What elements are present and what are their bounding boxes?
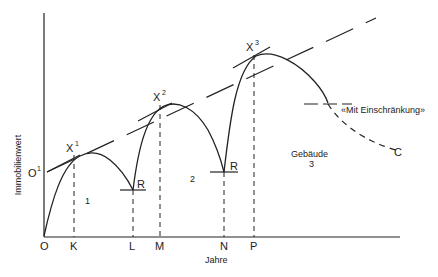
property-value-diagram: Immobilienwert O 1 O K L M N P Jahre X 1… bbox=[0, 0, 438, 277]
value-curve-cycle-1 bbox=[44, 153, 133, 236]
tangent-x1 bbox=[47, 155, 80, 172]
origin-label: O bbox=[40, 240, 49, 252]
x-axis-label: Jahre bbox=[205, 255, 228, 265]
svg-text:1: 1 bbox=[75, 140, 79, 147]
svg-text:O: O bbox=[28, 167, 37, 179]
x-tick-m: M bbox=[155, 240, 164, 252]
phase-label-1: 1 bbox=[85, 196, 90, 206]
x-tick-k: K bbox=[70, 240, 78, 252]
y-axis-label: Immobilienwert bbox=[13, 134, 23, 195]
phase-label-2: 2 bbox=[190, 174, 195, 184]
svg-text:3: 3 bbox=[255, 39, 259, 46]
phase-label-3: 3 bbox=[309, 159, 314, 169]
x-tick-l: L bbox=[129, 240, 135, 252]
curve-end-label: C bbox=[394, 146, 402, 158]
peak-label-x3: X 3 bbox=[246, 39, 259, 53]
tangent-x2 bbox=[138, 103, 172, 121]
svg-text:X: X bbox=[153, 91, 161, 103]
restriction-annotation: «Mit Einschränkung» bbox=[341, 105, 425, 115]
peak-label-x1: X 1 bbox=[66, 140, 79, 154]
start-value-label: O 1 bbox=[28, 165, 41, 179]
peak-label-x2: X 2 bbox=[153, 89, 166, 103]
renovation-label-1: R bbox=[137, 178, 145, 190]
x-tick-p: P bbox=[250, 240, 257, 252]
svg-text:X: X bbox=[66, 142, 74, 154]
x-tick-n: N bbox=[220, 240, 228, 252]
renovation-label-2: R bbox=[230, 160, 238, 172]
svg-text:1: 1 bbox=[37, 165, 41, 172]
building-label: Gebäude bbox=[291, 149, 328, 159]
svg-text:X: X bbox=[246, 41, 254, 53]
svg-text:2: 2 bbox=[162, 89, 166, 96]
